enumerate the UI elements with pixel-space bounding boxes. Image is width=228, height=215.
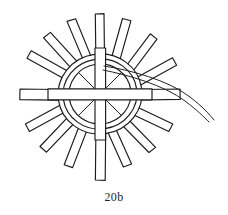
hub-cross-horizontal bbox=[48, 89, 152, 100]
figure-container: 20b bbox=[0, 0, 228, 215]
figure-drawing bbox=[0, 0, 228, 215]
figure-caption: 20b bbox=[0, 190, 228, 204]
